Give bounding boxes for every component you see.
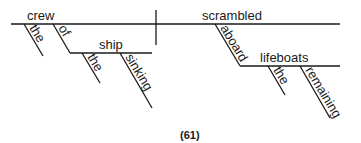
subject-word: crew	[27, 8, 55, 23]
modifier-word-the-crew: the	[26, 22, 48, 45]
modifier-word-remaining: remaining	[302, 64, 344, 121]
predicate-word: scrambled	[202, 8, 262, 23]
object-word-ship: ship	[99, 37, 123, 52]
diagram-caption: (61)	[180, 129, 200, 141]
modifier-word-the-lifeboats: the	[270, 64, 292, 87]
modifier-word-the-ship: the	[84, 51, 106, 74]
preposition-word-aboard: aboard	[217, 22, 251, 64]
sentence-diagram: crew the of ship the sinking scrambled a…	[0, 0, 361, 143]
object-word-lifeboats: lifeboats	[260, 50, 309, 65]
